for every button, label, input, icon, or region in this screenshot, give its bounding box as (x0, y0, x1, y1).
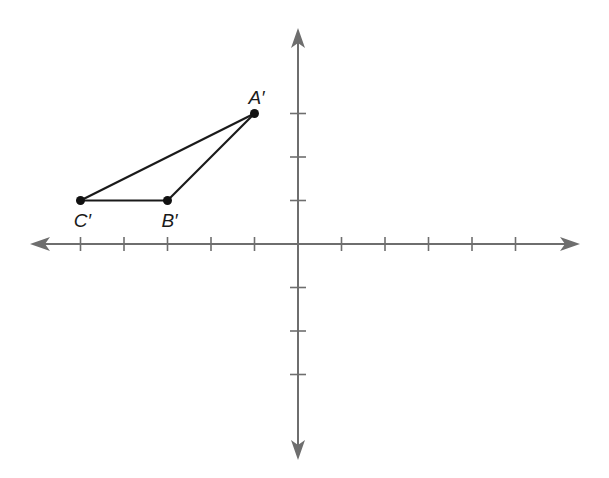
axes (30, 28, 580, 460)
point-b-dot-icon (163, 196, 172, 205)
point-a-dot-icon (250, 109, 259, 118)
point-a-label: A′ (247, 87, 266, 108)
segment-a-b (168, 114, 255, 201)
triangle-a-b-c (76, 109, 259, 205)
point-c-label: C′ (74, 210, 93, 231)
vertex-labels: A′B′C′ (74, 87, 266, 231)
point-c-dot-icon (76, 196, 85, 205)
coordinate-plane: A′B′C′ (0, 0, 609, 478)
point-b-label: B′ (161, 210, 179, 231)
segment-c-a (81, 114, 255, 201)
